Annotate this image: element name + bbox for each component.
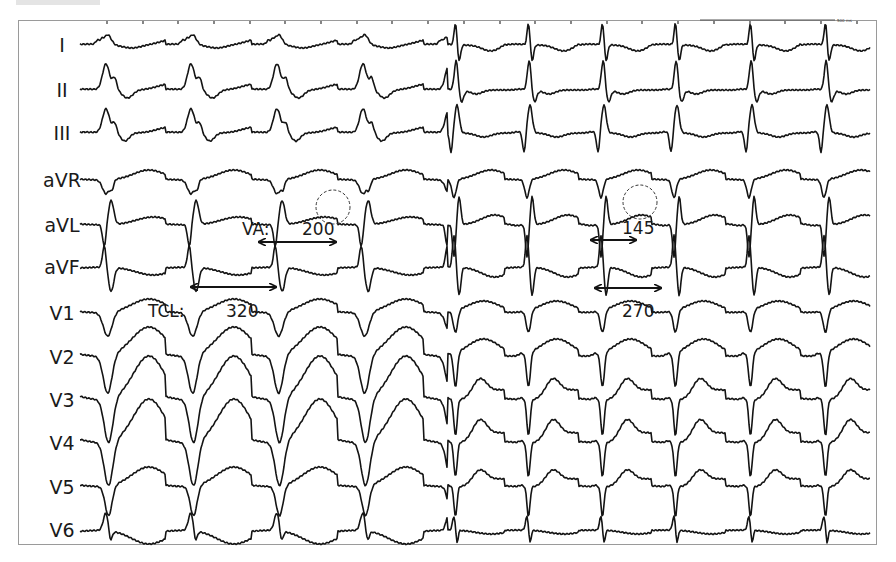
trace-avr [80,169,870,198]
lead-traces [80,24,870,545]
trace-ii [80,60,870,102]
lead-label-v2: V2 [49,346,74,368]
tcl-right-value: 270 [622,301,654,321]
lead-label-v6: V6 [49,519,74,541]
va-left-value: 200 [302,219,334,239]
trace-v1 [80,299,870,337]
time-ticks [107,21,857,24]
lead-label-avr: aVR [43,169,81,191]
lead-label-v5: V5 [49,476,74,498]
trace-i [80,24,870,61]
trace-avl [80,196,870,257]
va-right-value: 145 [622,218,654,238]
scale-bar: 500 ms [700,18,852,23]
lead-label-v1: V1 [49,302,74,324]
tcl-label: TCL: [147,301,184,321]
dashed-circle-right [623,185,657,219]
ecg-tracing-canvas: 500 ms IIIIIIaVRaVLaVFV1V2V3V4V5V6 TCL: … [0,0,896,562]
lead-label-ii: II [56,79,67,101]
lead-label-avf: aVF [44,256,80,278]
trace-v4 [80,399,870,486]
lead-label-avl: aVL [44,214,80,236]
tcl-left-value: 320 [226,301,258,321]
lead-label-v4: V4 [49,432,74,454]
lead-label-i: I [59,34,65,56]
lead-label-v3: V3 [49,389,74,411]
scale-bar-label: 500 ms [837,18,852,23]
lead-label-iii: III [54,122,71,144]
lead-labels: IIIIIIaVRaVLaVFV1V2V3V4V5V6 [43,34,81,541]
trace-v6 [80,513,870,545]
va-label: VA: [242,219,270,239]
trace-iii [80,105,870,153]
